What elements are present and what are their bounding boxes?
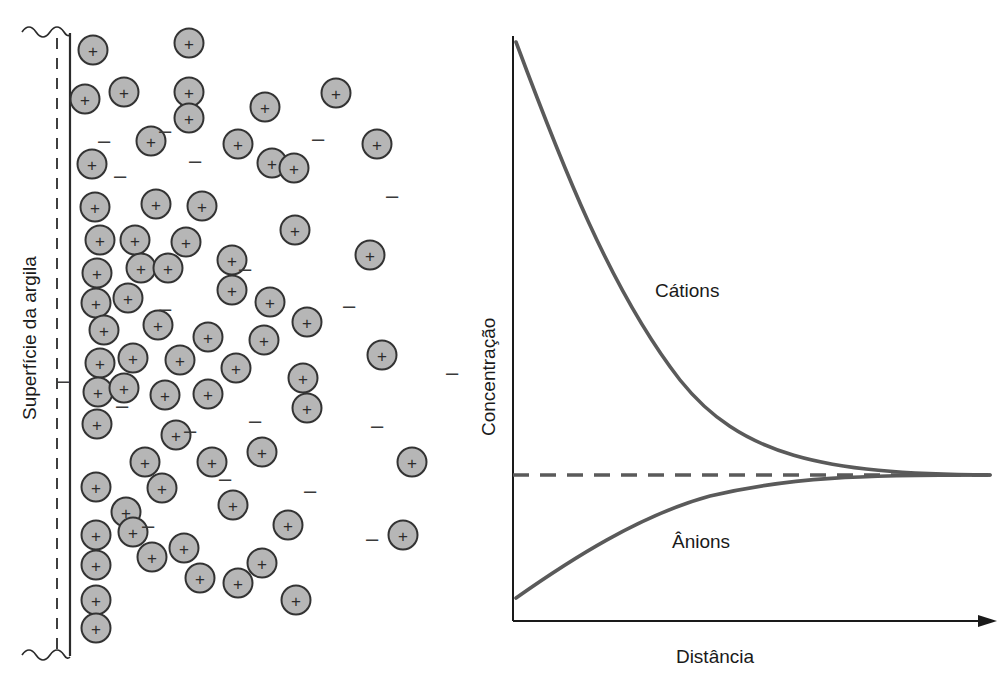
anion-particle: – bbox=[159, 296, 172, 321]
svg-text:+: + bbox=[203, 329, 213, 348]
svg-text:+: + bbox=[123, 290, 133, 309]
anion-particle: – bbox=[98, 128, 111, 153]
cation-particle: + bbox=[224, 569, 253, 598]
svg-text:+: + bbox=[92, 416, 102, 435]
svg-text:+: + bbox=[130, 232, 140, 251]
cation-particle: + bbox=[188, 192, 217, 221]
svg-text:+: + bbox=[163, 260, 173, 279]
svg-text:+: + bbox=[147, 549, 157, 568]
svg-text:+: + bbox=[91, 620, 101, 639]
svg-text:+: + bbox=[233, 575, 243, 594]
svg-text:+: + bbox=[91, 479, 101, 498]
svg-text:+: + bbox=[257, 444, 267, 463]
anion-particle: – bbox=[446, 360, 459, 385]
cation-particle: + bbox=[148, 474, 177, 503]
cation-particle: + bbox=[83, 259, 112, 288]
svg-text:+: + bbox=[203, 386, 213, 405]
cation-particle: + bbox=[170, 534, 199, 563]
anion-particle: – bbox=[116, 393, 129, 418]
svg-text:+: + bbox=[197, 198, 207, 217]
svg-text:+: + bbox=[298, 370, 308, 389]
svg-text:+: + bbox=[179, 540, 189, 559]
cation-particle: + bbox=[175, 29, 204, 58]
cation-particle: + bbox=[251, 93, 280, 122]
svg-text:+: + bbox=[283, 517, 293, 536]
svg-text:+: + bbox=[331, 85, 341, 104]
cation-particle: + bbox=[154, 254, 183, 283]
svg-text:+: + bbox=[257, 555, 267, 574]
anion-particle: – bbox=[142, 513, 155, 538]
cation-particle: + bbox=[82, 586, 111, 615]
cation-particle: + bbox=[389, 521, 418, 550]
cation-particle: + bbox=[248, 549, 277, 578]
cation-particle: + bbox=[282, 586, 311, 615]
cation-particle: + bbox=[86, 226, 115, 255]
svg-text:+: + bbox=[290, 222, 300, 241]
anion-curve bbox=[516, 475, 990, 598]
svg-text:+: + bbox=[195, 570, 205, 589]
svg-text:+: + bbox=[99, 322, 109, 341]
svg-text:+: + bbox=[92, 265, 102, 284]
cation-particle: + bbox=[322, 79, 351, 108]
anion-curve-label: Ânions bbox=[672, 531, 730, 552]
cation-particle: + bbox=[71, 85, 100, 114]
cation-particle: + bbox=[90, 316, 119, 345]
cation-particle: + bbox=[248, 438, 277, 467]
svg-text:+: + bbox=[128, 524, 138, 543]
cation-particle: + bbox=[186, 564, 215, 593]
cation-particle: + bbox=[356, 241, 385, 270]
cation-particle: + bbox=[84, 378, 113, 407]
cation-particle: + bbox=[194, 323, 223, 352]
svg-text:+: + bbox=[93, 384, 103, 403]
anion-particle: – bbox=[386, 183, 399, 208]
svg-text:+: + bbox=[372, 136, 382, 155]
cation-particle: + bbox=[256, 288, 285, 317]
cation-particle: + bbox=[127, 254, 156, 283]
svg-text:+: + bbox=[91, 592, 101, 611]
cation-particle: + bbox=[250, 326, 279, 355]
svg-text:+: + bbox=[184, 35, 194, 54]
clay-bottom-wavy-edge bbox=[22, 650, 70, 660]
cation-particle: + bbox=[293, 308, 322, 337]
anion-particle: – bbox=[114, 163, 127, 188]
svg-text:+: + bbox=[95, 232, 105, 251]
chart-y-axis-label: Concentração bbox=[478, 318, 499, 436]
svg-text:+: + bbox=[128, 350, 138, 369]
svg-text:+: + bbox=[365, 247, 375, 266]
svg-text:+: + bbox=[227, 282, 237, 301]
cation-particle: + bbox=[289, 364, 318, 393]
cation-particle: + bbox=[82, 289, 111, 318]
cation-particle: + bbox=[86, 349, 115, 378]
cation-particle: + bbox=[175, 78, 204, 107]
svg-text:+: + bbox=[302, 314, 312, 333]
svg-text:+: + bbox=[157, 480, 167, 499]
svg-text:+: + bbox=[407, 454, 417, 473]
svg-text:+: + bbox=[140, 454, 150, 473]
clay-surface-group: Superfície da argila bbox=[19, 27, 70, 660]
cation-particle: + bbox=[82, 551, 111, 580]
cation-particle: + bbox=[82, 521, 111, 550]
svg-text:+: + bbox=[171, 427, 181, 446]
chart-x-axis-label: Distância bbox=[676, 646, 755, 667]
electrical-double-layer-diagram: Superfície da argila +++++++++++++++++++… bbox=[0, 0, 1003, 681]
anion-particle: – bbox=[184, 418, 197, 443]
svg-text:+: + bbox=[136, 260, 146, 279]
cation-particle: + bbox=[224, 130, 253, 159]
svg-text:+: + bbox=[260, 99, 270, 118]
cation-particle: + bbox=[363, 130, 392, 159]
svg-text:+: + bbox=[80, 91, 90, 110]
clay-top-wavy-edge bbox=[22, 27, 70, 37]
clay-surface-label: Superfície da argila bbox=[19, 256, 40, 420]
anion-particle: – bbox=[304, 478, 317, 503]
anion-particle: – bbox=[312, 126, 325, 151]
svg-text:+: + bbox=[91, 295, 101, 314]
svg-text:+: + bbox=[231, 360, 241, 379]
svg-text:+: + bbox=[228, 497, 238, 516]
anion-particle: – bbox=[159, 118, 172, 143]
svg-text:+: + bbox=[265, 294, 275, 313]
anion-particle: – bbox=[189, 148, 202, 173]
cation-particle: + bbox=[82, 473, 111, 502]
cation-particle: + bbox=[280, 154, 309, 183]
svg-text:+: + bbox=[289, 160, 299, 179]
cation-particle: + bbox=[131, 448, 160, 477]
